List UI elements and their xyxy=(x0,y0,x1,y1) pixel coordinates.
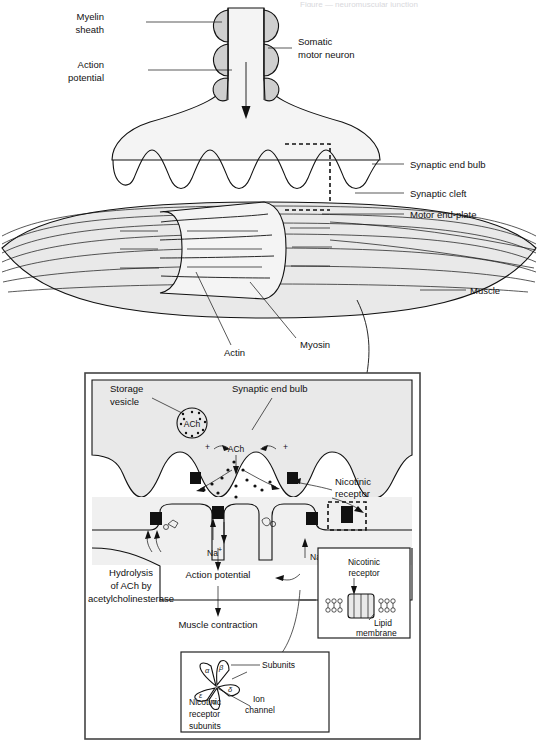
label-ion-channel-line1: Ion xyxy=(253,694,265,704)
label-hydrolysis-line2: of ACh by xyxy=(110,580,151,591)
neuromuscular-junction-figure: Myelin sheath Action potential Somatic m… xyxy=(0,0,538,753)
label-ion-channel-line2: channel xyxy=(245,705,275,715)
subunits-inset: α β δ α ε Subunit xyxy=(181,652,329,732)
main-panel: Myelin sheath Action potential Somatic m… xyxy=(2,8,536,409)
label-hydrolysis-line1: Hydrolysis xyxy=(109,567,153,578)
label-lipid-membrane-line2: membrane xyxy=(356,628,397,638)
subunits-inset-frame xyxy=(181,652,329,732)
label-somatic-motor-neuron-line1: Somatic xyxy=(298,36,333,47)
label-lipid-membrane-line1: Lipid xyxy=(374,618,392,628)
label-subunits-caption-line3: subunits xyxy=(189,721,221,731)
label-actin: Actin xyxy=(224,347,245,358)
label-nicotinic-receptor-line1: Nicotinic xyxy=(335,476,371,487)
label-synaptic-cleft: Synaptic cleft xyxy=(410,188,467,199)
plus-sign-right: + xyxy=(283,442,288,452)
subunit-symbol-beta: β xyxy=(218,663,224,672)
label-action-potential-line2: potential xyxy=(68,72,104,83)
label-myelin-sheath-line2: sheath xyxy=(75,24,104,35)
receptor-barrel xyxy=(348,594,374,618)
label-muscle: Muscle xyxy=(470,285,500,296)
diagram-canvas: Figure — neuromuscular junction xyxy=(0,0,538,753)
inset-panel: ACh ACh + + xyxy=(85,373,420,739)
cleft-ach-text: ACh xyxy=(228,444,245,454)
label-subunits: Subunits xyxy=(262,660,295,670)
label-somatic-motor-neuron-line2: motor neuron xyxy=(298,49,355,60)
label-storage-vesicle-line2: vesicle xyxy=(110,396,139,407)
label-action-potential-line1: Action xyxy=(78,59,104,70)
label-myosin: Myosin xyxy=(300,339,330,350)
label-myelin-sheath-line1: Myelin xyxy=(77,11,104,22)
label-hydrolysis-line3: acetylcholinesterase xyxy=(88,593,174,604)
label-synaptic-end-bulb: Synaptic end bulb xyxy=(410,159,486,170)
label-muscle-contraction: Muscle contraction xyxy=(178,619,257,630)
membrane-inset-title-line2: receptor xyxy=(348,568,379,578)
label-nicotinic-receptor-line2: receptor xyxy=(335,488,370,499)
membrane-inset-title-line1: Nicotinic xyxy=(348,557,381,567)
label-storage-vesicle-line1: Storage xyxy=(110,383,143,394)
plus-sign-left: + xyxy=(205,442,210,452)
label-inset-action-potential: Action potential xyxy=(186,569,251,580)
label-motor-end-plate: Motor end-plate xyxy=(410,209,477,220)
vesicle-ach-text: ACh xyxy=(184,419,201,429)
label-subunits-caption-line2: receptor xyxy=(189,709,220,719)
page-header-fragment: Figure — neuromuscular junction xyxy=(300,0,538,7)
subunit-symbol-alpha-1: α xyxy=(205,666,210,675)
label-inset-synaptic-end-bulb: Synaptic end bulb xyxy=(232,383,308,394)
label-subunits-caption-line1: Nicotinic xyxy=(189,697,222,707)
